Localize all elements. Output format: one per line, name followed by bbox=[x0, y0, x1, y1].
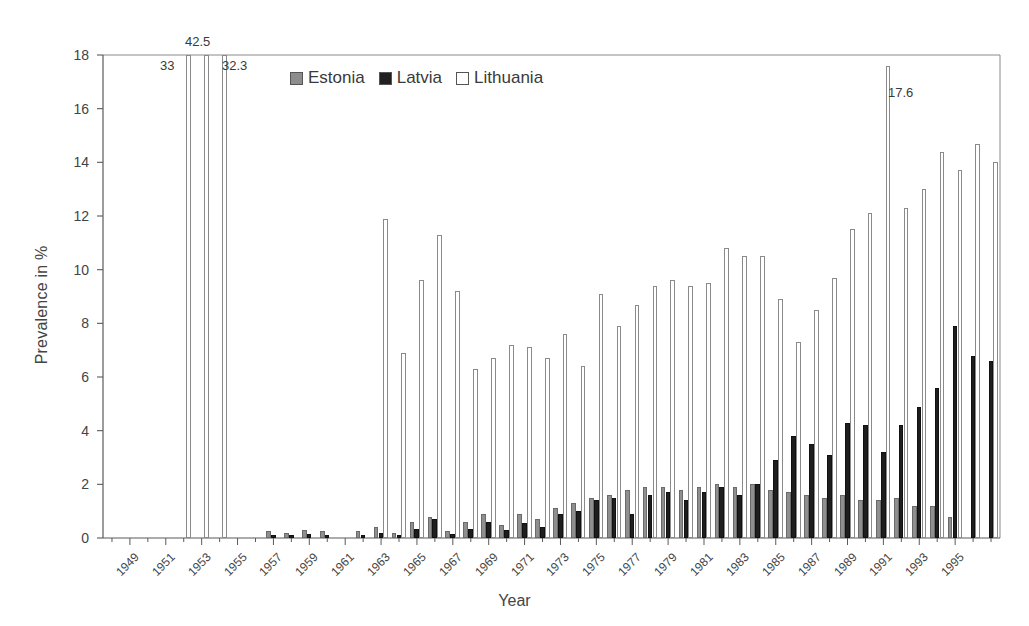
bar-lithuania-1993 bbox=[922, 189, 927, 538]
annotation-33: 33 bbox=[160, 58, 174, 73]
bar-lithuania-1973 bbox=[563, 334, 568, 538]
legend-label: Estonia bbox=[308, 68, 365, 88]
bar-lithuania-1995 bbox=[958, 170, 963, 538]
bar-lithuania-1971 bbox=[527, 347, 532, 538]
bar-lithuania-1978 bbox=[653, 286, 658, 538]
y-tick-label: 0 bbox=[49, 530, 89, 546]
bar-lithuania-1974 bbox=[581, 366, 586, 538]
annotation-17-6: 17.6 bbox=[888, 85, 913, 100]
bar-lithuania-1988 bbox=[832, 278, 837, 538]
bar-lithuania-1977 bbox=[635, 305, 640, 538]
bar-lithuania-1965 bbox=[419, 280, 424, 538]
bar-lithuania-1976 bbox=[617, 326, 622, 538]
bar-lithuania-1992 bbox=[904, 208, 909, 538]
bar-lithuania-1964 bbox=[401, 353, 406, 538]
legend-label: Latvia bbox=[397, 68, 442, 88]
y-tick-label: 8 bbox=[49, 315, 89, 331]
bar-latvia-1962 bbox=[361, 535, 366, 538]
bar-lithuania-1979 bbox=[670, 280, 675, 538]
bar-lithuania-1970 bbox=[509, 345, 514, 538]
bar-lithuania-1991 bbox=[886, 66, 891, 538]
bar-latvia-1959 bbox=[307, 534, 312, 538]
y-tick-label: 2 bbox=[49, 476, 89, 492]
bar-lithuania-1968 bbox=[473, 369, 478, 538]
legend-label: Lithuania bbox=[474, 68, 543, 88]
bar-lithuania-1990 bbox=[868, 213, 873, 538]
bar-latvia-1958 bbox=[289, 535, 294, 538]
y-tick-label: 14 bbox=[49, 154, 89, 170]
bar-lithuania-1954 bbox=[222, 55, 227, 538]
plot-area bbox=[103, 55, 1000, 538]
bar-lithuania-1994 bbox=[940, 152, 945, 538]
bar-lithuania-1981 bbox=[706, 283, 711, 538]
legend-swatch-lithuania-icon bbox=[456, 72, 469, 85]
legend-swatch-estonia-icon bbox=[290, 72, 303, 85]
bar-latvia-1960 bbox=[325, 535, 330, 538]
legend-item-lithuania: Lithuania bbox=[456, 68, 543, 88]
x-axis-title: Year bbox=[0, 592, 1029, 610]
legend-swatch-latvia-icon bbox=[379, 72, 392, 85]
bar-lithuania-1953 bbox=[204, 55, 209, 538]
bar-latvia-1957 bbox=[271, 535, 276, 538]
bar-lithuania-1980 bbox=[688, 286, 693, 538]
bar-lithuania-1952 bbox=[186, 55, 191, 538]
bar-lithuania-1984 bbox=[760, 256, 765, 538]
bar-lithuania-1982 bbox=[724, 248, 729, 538]
bar-lithuania-1996 bbox=[975, 144, 980, 538]
chart-legend: EstoniaLatviaLithuania bbox=[290, 68, 543, 88]
y-tick-label: 10 bbox=[49, 262, 89, 278]
y-tick-label: 6 bbox=[49, 369, 89, 385]
bar-lithuania-1983 bbox=[742, 256, 747, 538]
bar-lithuania-1975 bbox=[599, 294, 604, 538]
bar-lithuania-1963 bbox=[383, 219, 388, 538]
bar-lithuania-1989 bbox=[850, 229, 855, 538]
annotation-42-5: 42.5 bbox=[185, 34, 210, 49]
annotation-32-3: 32.3 bbox=[222, 58, 247, 73]
y-tick-label: 16 bbox=[49, 101, 89, 117]
legend-item-estonia: Estonia bbox=[290, 68, 365, 88]
bar-lithuania-1966 bbox=[437, 235, 442, 538]
prevalence-bar-chart: Prevalence in % 024681012141618 19491951… bbox=[0, 0, 1029, 626]
bar-lithuania-1985 bbox=[778, 299, 783, 538]
legend-item-latvia: Latvia bbox=[379, 68, 442, 88]
bar-lithuania-1969 bbox=[491, 358, 496, 538]
bar-lithuania-1987 bbox=[814, 310, 819, 538]
bar-lithuania-1967 bbox=[455, 291, 460, 538]
bar-lithuania-1986 bbox=[796, 342, 801, 538]
y-tick-label: 18 bbox=[49, 47, 89, 63]
bar-lithuania-1972 bbox=[545, 358, 550, 538]
y-tick-label: 4 bbox=[49, 423, 89, 439]
y-tick-label: 12 bbox=[49, 208, 89, 224]
bar-lithuania-1997 bbox=[993, 162, 998, 538]
